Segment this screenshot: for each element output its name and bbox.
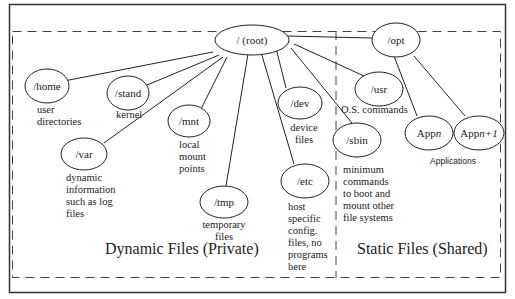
node-etc-label: /etc [297, 175, 313, 187]
var-desc-line: files [66, 208, 84, 219]
mnt-desc-line: mount [179, 151, 206, 162]
sbin-desc-line: mount other [343, 200, 395, 211]
node-tmp: /tmp [200, 186, 248, 218]
node-appn1-label: Appn+1 [460, 127, 497, 139]
edge-opt-appn1 [414, 56, 465, 116]
node-tmp-label: /tmp [214, 196, 235, 208]
node-appn: Appn [405, 116, 453, 150]
var-desc-line: dynamic [66, 172, 102, 183]
etc-desc-line: here [288, 261, 306, 272]
var-desc-line: such as log [66, 196, 113, 207]
node-opt: /opt [372, 23, 420, 57]
edge-root-tmp [226, 54, 248, 186]
dev-desc-line: device [290, 122, 318, 133]
usr-desc-line: O.S. commands [341, 104, 408, 115]
edge-root-mnt [200, 57, 227, 111]
node-usr: /usr [355, 72, 403, 106]
region-label-dynamic: Dynamic Files (Private) [105, 240, 259, 258]
node-etc: /etc [281, 164, 329, 198]
etc-desc-line: host [288, 201, 306, 212]
node-mnt: /mnt [168, 105, 210, 137]
home-desc-line: directories [37, 116, 81, 127]
var-desc-line: information [66, 184, 116, 195]
node-appn-label: Appn [417, 127, 442, 139]
node-usr-label: /usr [371, 83, 388, 95]
applications-label: Applications [430, 156, 476, 166]
region-label-static: Static Files (Shared) [357, 240, 488, 258]
node-root: / (root) [215, 25, 289, 55]
node-dev-label: /dev [291, 97, 310, 109]
node-root-label: / (root) [237, 34, 268, 47]
node-sbin-label: /sbin [346, 134, 368, 146]
tmp-desc-line: temporary [202, 219, 246, 230]
filesystem-diagram: / (root) /home user directories /stand k… [0, 0, 515, 299]
node-mnt-label: /mnt [179, 115, 199, 127]
sbin-desc-line: file systems [343, 212, 393, 223]
node-sbin: /sbin [333, 123, 381, 157]
etc-desc-line: config. [288, 225, 317, 236]
edge-root-stand [147, 55, 219, 85]
home-desc-line: user [37, 104, 55, 115]
mnt-desc-line: local [179, 139, 199, 150]
node-home: /home [25, 69, 69, 103]
node-stand: /stand [107, 76, 149, 110]
edge-root-dev [276, 48, 286, 88]
mnt-desc-line: points [179, 163, 205, 174]
edge-root-opt [287, 36, 372, 38]
node-var: /var [61, 138, 107, 170]
sbin-desc-line: commands [343, 176, 389, 187]
node-opt-label: /opt [387, 34, 404, 46]
sbin-desc-line: minimum [343, 164, 384, 175]
node-dev: /dev [278, 87, 322, 119]
node-stand-label: /stand [115, 87, 142, 99]
node-appn1: Appn+1 [454, 116, 504, 150]
edge-root-usr [294, 44, 364, 76]
etc-desc-line: specific [288, 213, 321, 224]
node-var-label: /var [75, 148, 92, 160]
node-home-label: /home [33, 80, 61, 92]
etc-desc-line: programs [288, 249, 328, 260]
dev-desc-line: files [295, 134, 313, 145]
stand-desc-line: kernel [116, 109, 142, 120]
etc-desc-line: files, no [288, 237, 322, 248]
sbin-desc-line: to boot and [343, 188, 391, 199]
